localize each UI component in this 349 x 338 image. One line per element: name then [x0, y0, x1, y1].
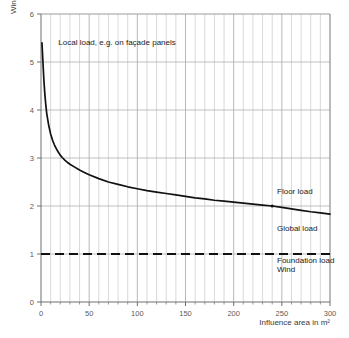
chart-svg: 050100150200250300 0123456 Local load, e… — [0, 0, 349, 338]
x-tick-label: 200 — [227, 309, 240, 318]
annotation-floor-load: Floor load — [277, 187, 313, 196]
x-tick-label: 250 — [276, 309, 289, 318]
y-tick-label: 6 — [30, 10, 34, 19]
y-tick-label: 4 — [30, 106, 34, 115]
x-tick-label: 50 — [85, 309, 93, 318]
y-tick-labels: 0123456 — [30, 10, 34, 307]
x-axis-title: Influence area in m² — [259, 318, 330, 327]
annotation-local-load: Local load, e.g. on façade panels — [58, 38, 175, 47]
y-axis-ticks — [37, 14, 41, 302]
x-axis-ticks — [41, 302, 330, 306]
y-axis-title: Wind load in kN/m² — [9, 0, 18, 14]
y-tick-label: 3 — [30, 154, 34, 163]
y-tick-label: 5 — [30, 58, 34, 67]
annotation-foundation-load: Foundation load — [277, 256, 334, 265]
y-tick-label: 0 — [30, 298, 34, 307]
annotation-wind: Wind — [277, 265, 295, 274]
x-tick-label: 150 — [179, 309, 192, 318]
x-tick-label: 0 — [39, 309, 43, 318]
y-tick-label: 2 — [30, 202, 34, 211]
wind-load-chart-figure: 050100150200250300 0123456 Local load, e… — [0, 0, 349, 338]
x-tick-label: 100 — [131, 309, 144, 318]
curve-markers — [271, 204, 274, 207]
curve-marker-dot — [271, 204, 274, 207]
x-tick-labels: 050100150200250300 — [39, 309, 336, 318]
y-tick-label: 1 — [30, 250, 34, 259]
annotation-global-load: Global load — [277, 224, 317, 233]
x-tick-label: 300 — [324, 309, 337, 318]
